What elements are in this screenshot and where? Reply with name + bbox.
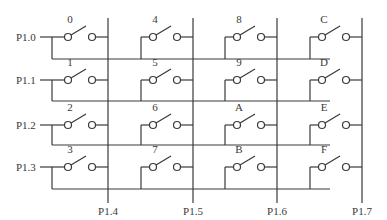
key-switch-9: 9 (225, 56, 277, 101)
key-label: E (321, 101, 328, 113)
row-label: P1.1 (16, 74, 36, 86)
key-switch-A: A (225, 101, 277, 145)
row-label: P1.2 (16, 119, 36, 131)
key-switch-4: 4 (141, 13, 193, 59)
key-label: 1 (67, 56, 73, 68)
key-switch-8: 8 (225, 13, 277, 59)
row-label: P1.3 (16, 161, 36, 173)
key-label: 8 (236, 13, 242, 25)
key-switch-7: 7 (141, 143, 193, 189)
row-label: P1.0 (16, 31, 36, 43)
key-label: D (320, 56, 328, 68)
key-label: 3 (67, 143, 73, 155)
key-label: 7 (152, 143, 158, 155)
column-label: P1.5 (183, 205, 203, 217)
key-label: B (235, 143, 242, 155)
key-label: 5 (152, 56, 158, 68)
key-switch-1: 1 (52, 56, 108, 84)
key-label: C (320, 13, 327, 25)
key-switch-E: E (310, 101, 362, 145)
key-switch-C: C (310, 13, 362, 59)
key-label: A (235, 101, 243, 113)
keypad-matrix-diagram: P1.4P1.5P1.6P1.7P1.0048CP1.1159DP1.226AE… (0, 0, 387, 220)
key-switch-0: 0 (52, 13, 108, 41)
key-switch-6: 6 (141, 101, 193, 145)
column-label: P1.4 (98, 205, 118, 217)
key-label: 0 (67, 13, 73, 25)
key-switch-3: 3 (52, 143, 108, 171)
column-label: P1.6 (267, 205, 287, 217)
key-switch-2: 2 (52, 101, 108, 129)
key-label: 4 (152, 13, 158, 25)
key-label: F (321, 143, 327, 155)
key-switch-5: 5 (141, 56, 193, 101)
key-label: 6 (152, 101, 158, 113)
key-label: 9 (236, 56, 242, 68)
key-label: 2 (67, 101, 73, 113)
key-switch-B: B (225, 143, 277, 189)
key-switch-D: D (310, 56, 362, 101)
column-label: P1.7 (352, 205, 372, 217)
key-switch-F: F (310, 143, 362, 189)
